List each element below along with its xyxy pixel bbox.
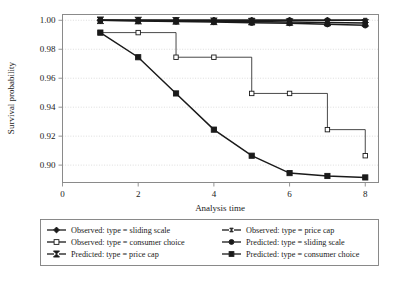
legend-label: Observed: type = consumer choice xyxy=(71,238,185,247)
x-tick-label: 8 xyxy=(363,189,368,199)
marker-square-open xyxy=(363,153,367,157)
marker-square-filled xyxy=(211,127,216,132)
x-tick-label: 4 xyxy=(212,189,217,199)
marker-circle-filled xyxy=(229,240,234,245)
y-tick-label: 0.98 xyxy=(40,44,56,54)
legend-label: Observed: type = price cap xyxy=(246,226,334,235)
y-axis-title: Survival probability xyxy=(6,61,16,134)
marker-square-filled xyxy=(98,30,103,35)
x-tick-label: 0 xyxy=(60,189,65,199)
legend-label: Predicted: type = consumer choice xyxy=(246,250,360,259)
marker-square-open xyxy=(250,91,254,95)
x-axis-title: Analysis time xyxy=(195,203,245,213)
y-tick-label: 0.94 xyxy=(40,102,56,112)
y-tick-label: 0.96 xyxy=(40,73,56,83)
marker-square-open xyxy=(212,55,216,59)
y-tick-label: 0.90 xyxy=(40,160,56,170)
y-tick-label: 1.00 xyxy=(40,15,56,25)
marker-square-open xyxy=(325,127,329,131)
marker-square-open xyxy=(136,30,140,34)
legend-label: Observed: type = sliding scale xyxy=(71,226,171,235)
marker-square-open xyxy=(54,240,59,245)
marker-square-filled xyxy=(249,153,254,158)
chart-canvas: 02468 0.900.920.940.960.981.00 Analysis … xyxy=(0,0,409,282)
survival-probability-chart-figure: 02468 0.900.920.940.960.981.00 Analysis … xyxy=(0,0,409,282)
x-tick-label: 6 xyxy=(287,189,292,199)
marker-square-filled xyxy=(287,170,292,175)
marker-square-open xyxy=(287,91,291,95)
marker-square-filled xyxy=(229,252,234,257)
legend-label: Predicted: type = price cap xyxy=(71,250,159,259)
legend-label: Predicted: type = sliding scale xyxy=(246,238,345,247)
marker-square-filled xyxy=(173,91,178,96)
marker-square-filled xyxy=(136,55,141,60)
marker-square-open xyxy=(174,55,178,59)
marker-square-filled xyxy=(363,175,368,180)
x-tick-label: 2 xyxy=(136,189,141,199)
marker-square-filled xyxy=(325,173,330,178)
y-tick-label: 0.92 xyxy=(40,131,56,141)
